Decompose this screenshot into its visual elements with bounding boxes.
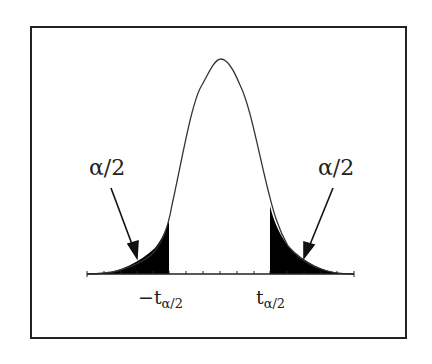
right-alpha-label: α/2 bbox=[318, 155, 354, 180]
right-tail-shade bbox=[270, 206, 345, 274]
left-arrow bbox=[111, 188, 138, 258]
right-critical-label: tα/2 bbox=[256, 286, 285, 311]
right-critical-main: t bbox=[256, 286, 264, 308]
left-critical-main: −t bbox=[138, 286, 162, 308]
left-alpha-label: α/2 bbox=[89, 155, 125, 180]
left-critical-label: −tα/2 bbox=[138, 286, 183, 311]
density-curve bbox=[87, 59, 354, 274]
distribution-plot bbox=[0, 0, 432, 364]
left-critical-sub: α/2 bbox=[162, 296, 183, 311]
right-arrow bbox=[304, 188, 333, 258]
right-critical-sub: α/2 bbox=[264, 296, 285, 311]
